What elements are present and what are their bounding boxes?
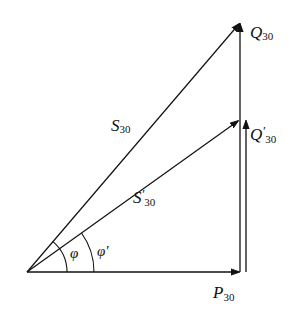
phi-prime-arc [82,233,95,272]
q30-prime-label: Q′30 [250,123,277,145]
phi-prime-label: φ′ [97,243,109,259]
s30-prime-label: S′30 [133,186,156,208]
phi-arc [53,242,67,272]
s30-label: S30 [111,116,131,135]
power-triangle-diagram: Q30 Q′30 S30 S′30 P30 φ φ′ [0,0,306,321]
p30-label: P30 [212,283,235,303]
phi-label: φ [70,245,78,261]
s30-vector [27,24,239,272]
q30-label: Q30 [250,23,274,42]
